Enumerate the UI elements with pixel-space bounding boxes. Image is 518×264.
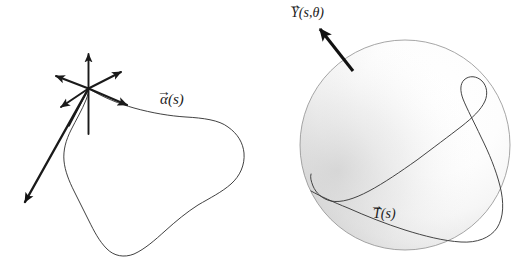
Y-vector-symbol: →Y [291,6,299,20]
sphere-terminator-shadow [300,40,510,250]
vector-arrow-accent-icon: → [288,0,301,12]
T-vector-symbol: →T [373,207,381,221]
alpha-close-paren: ) [179,91,184,107]
alpha-vector-symbol: →α [160,92,168,107]
vector-arrow-accent-icon: → [157,85,171,99]
vector-arrow-accent-icon: → [370,200,383,213]
Y-close-paren: ) [319,5,324,20]
T-close-paren: ) [391,206,396,221]
normal-label-Y: →Y(s,θ) [291,6,324,20]
figure-canvas [0,0,518,264]
curve-label-alpha: →α(s) [160,92,184,107]
tangent-label-T: →T(s) [373,207,396,221]
